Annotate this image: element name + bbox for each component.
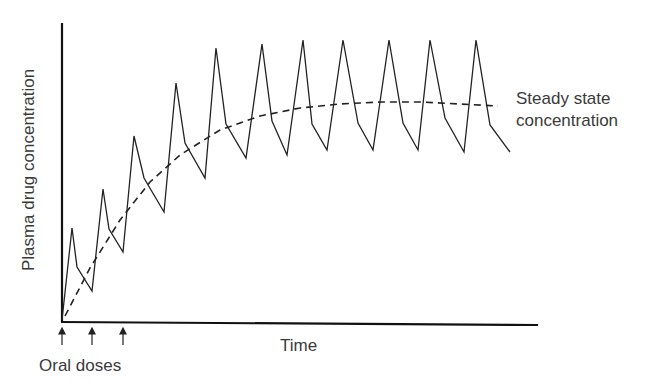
steady-state-dashed-curve (65, 102, 498, 316)
dose-arrow-icon (59, 328, 65, 345)
x-axis-label: Time (280, 336, 317, 356)
dose-arrow-icon (89, 328, 95, 345)
steady-state-label: Steady state concentration (516, 88, 618, 132)
x-axis (61, 322, 538, 325)
steady-state-label-line1: Steady state (516, 88, 618, 110)
dose-arrows (59, 328, 126, 345)
steady-state-label-line2: concentration (516, 110, 618, 132)
dose-arrow-icon (120, 328, 126, 345)
chart-canvas (0, 0, 651, 391)
oral-doses-label: Oral doses (39, 356, 121, 376)
y-axis-label: Plasma drug concentration (19, 69, 39, 271)
concentration-sawtooth-line (62, 40, 510, 320)
